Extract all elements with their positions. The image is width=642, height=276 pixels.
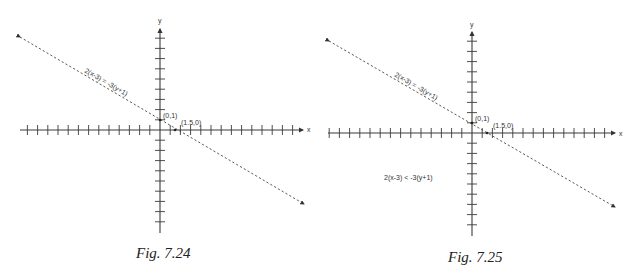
figure-caption: Fig. 7.24 — [135, 245, 191, 261]
x-axis-label: x — [307, 126, 311, 133]
x-intercept-point — [174, 129, 177, 132]
figure-7-24: y x (0,1) (1.5,0) 2(x-3) = -3(y+1) Fig. … — [20, 17, 311, 261]
x-intercept-label: (1.5,0) — [181, 119, 201, 127]
line-equation-label: 2(x-3) = -3(y+1) — [83, 67, 129, 98]
x-intercept-point — [486, 132, 489, 135]
y-axis-label: y — [470, 21, 474, 29]
y-intercept-label: (0,1) — [475, 115, 489, 123]
figure-7-25: y x (0,1) (1.5,0) 2(x-3) = -3(y+1) 2(x-3… — [328, 21, 623, 265]
y-axis-label: y — [158, 17, 162, 25]
figure-caption: Fig. 7.25 — [447, 249, 503, 265]
x-axis-label: x — [619, 130, 623, 137]
region-inequality-label: 2(x-3) < -3(y+1) — [384, 174, 433, 182]
y-intercept-label: (0,1) — [163, 112, 177, 120]
y-intercept-point — [159, 119, 162, 122]
y-intercept-point — [471, 122, 474, 125]
figures-canvas: y x (0,1) (1.5,0) 2(x-3) = -3(y+1) Fig. … — [0, 0, 642, 276]
line-equation-label: 2(x-3) = -3(y+1) — [393, 71, 439, 102]
boundary-line — [20, 37, 304, 204]
x-intercept-label: (1.5,0) — [493, 122, 513, 130]
